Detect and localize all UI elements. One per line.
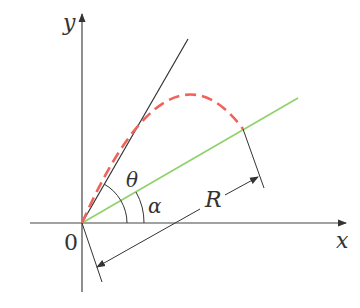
projectile-incline-diagram: y x 0 θ α R — [0, 0, 360, 308]
range-arrow-upper — [225, 177, 258, 195]
y-axis-label: y — [63, 12, 75, 34]
x-axis-label: x — [336, 230, 348, 252]
range-tick-start — [82, 223, 102, 282]
diagram-canvas — [0, 0, 360, 308]
origin-label: 0 — [64, 232, 78, 254]
range-label: R — [205, 189, 222, 211]
theta-label: θ — [126, 170, 138, 190]
alpha-label: α — [148, 196, 162, 216]
alpha-arc — [136, 192, 144, 223]
